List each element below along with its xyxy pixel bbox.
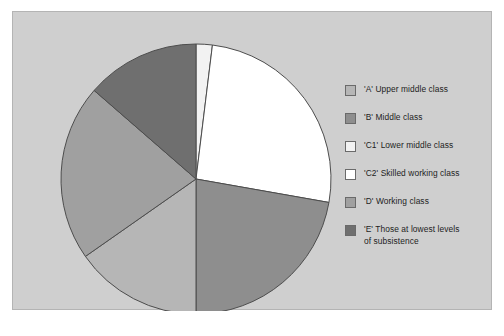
pie-slice-c2[interactable] (196, 45, 331, 202)
legend-label-e: 'E' Those at lowest levels of subsistenc… (364, 224, 459, 247)
legend-label-b: 'B' Middle class (364, 112, 422, 124)
legend-label-c1: 'C1' Lower middle class (364, 140, 453, 152)
chart-figure: 'A' Upper middle class 'B' Middle class … (12, 11, 492, 310)
legend-swatch-b-icon (345, 113, 356, 124)
chart-legend: 'A' Upper middle class 'B' Middle class … (345, 84, 493, 260)
legend-swatch-e-icon (345, 225, 356, 236)
legend-label-d: 'D' Working class (364, 196, 429, 208)
legend-item-c1[interactable]: 'C1' Lower middle class (345, 140, 493, 155)
legend-label-c2: 'C2' Skilled working class (364, 168, 460, 180)
legend-item-d[interactable]: 'D' Working class (345, 196, 493, 211)
legend-item-a[interactable]: 'A' Upper middle class (345, 84, 493, 99)
legend-item-c2[interactable]: 'C2' Skilled working class (345, 168, 493, 183)
legend-item-b[interactable]: 'B' Middle class (345, 112, 493, 127)
legend-item-e[interactable]: 'E' Those at lowest levels of subsistenc… (345, 224, 493, 247)
pie-chart-svg (13, 12, 343, 311)
pie-slice-group (61, 44, 331, 311)
legend-swatch-d-icon (345, 197, 356, 208)
legend-swatch-c1-icon (345, 141, 356, 152)
legend-swatch-a-icon (345, 85, 356, 96)
pie-slice-b[interactable] (196, 179, 329, 311)
pie-chart-area (13, 12, 343, 311)
legend-label-a: 'A' Upper middle class (364, 84, 448, 96)
legend-swatch-c2-icon (345, 169, 356, 180)
